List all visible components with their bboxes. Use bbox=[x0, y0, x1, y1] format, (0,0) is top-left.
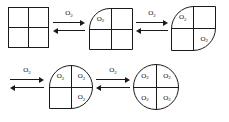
equilibrium-arrows-step-2: O2 bbox=[136, 10, 168, 34]
subunit-label-bottom-left bbox=[9, 28, 29, 48]
subunit-label-top-left bbox=[9, 8, 29, 28]
equilibrium-arrows-step-4: O2 bbox=[96, 67, 130, 91]
subunit-label-top-left: O2 bbox=[134, 65, 156, 87]
hemoglobin-state-2-two-oxygen: O2 O2 bbox=[171, 6, 216, 51]
subunit-label-bottom-right: O2 bbox=[194, 29, 216, 51]
arrow-label-oxygen: O2 bbox=[23, 67, 31, 74]
forward-arrow-icon bbox=[53, 19, 85, 26]
forward-arrow-icon bbox=[96, 76, 130, 83]
hemoglobin-oxygen-binding-diagram: O2 O2 O2 O2 O2 O2 bbox=[0, 0, 229, 122]
subunit-label-bottom-right: O2 bbox=[71, 87, 92, 108]
subunit-label-top-left: O2 bbox=[50, 66, 71, 87]
subunit-label-top-right bbox=[29, 8, 49, 28]
reverse-arrow-icon bbox=[53, 27, 85, 34]
arrow-label-oxygen: O2 bbox=[148, 10, 156, 17]
subunit-label-top-right: O2 bbox=[71, 66, 92, 87]
subunit-label-top-left: O2 bbox=[172, 7, 194, 29]
subunit-label-bottom-left bbox=[172, 29, 194, 51]
subunit-label-top-left: O2 bbox=[90, 9, 111, 29]
subunit-label-bottom-right: O2 bbox=[156, 87, 178, 109]
subunit-label-top-right bbox=[111, 9, 132, 29]
subunit-label-bottom-left bbox=[50, 87, 71, 108]
reverse-arrow-icon bbox=[10, 84, 44, 91]
forward-arrow-icon bbox=[136, 19, 168, 26]
subunit-label-bottom-right bbox=[29, 28, 49, 48]
subunit-label-top-right bbox=[194, 7, 216, 29]
hemoglobin-state-1-one-oxygen: O2 bbox=[89, 8, 133, 50]
arrow-label-oxygen: O2 bbox=[109, 67, 117, 74]
forward-arrow-icon bbox=[10, 76, 44, 83]
hemoglobin-state-3-three-oxygen: O2 O2 O2 bbox=[49, 65, 93, 109]
subunit-label-bottom-right bbox=[111, 29, 132, 49]
reverse-arrow-icon bbox=[96, 84, 130, 91]
equilibrium-arrows-step-3: O2 bbox=[10, 67, 44, 91]
subunit-label-bottom-left: O2 bbox=[134, 87, 156, 109]
equilibrium-arrows-step-1: O2 bbox=[53, 10, 85, 34]
subunit-label-bottom-left bbox=[90, 29, 111, 49]
hemoglobin-state-4-oxy: O2 O2 O2 O2 bbox=[133, 64, 179, 110]
hemoglobin-state-0-deoxy bbox=[8, 7, 49, 48]
subunit-label-top-right: O2 bbox=[156, 65, 178, 87]
reverse-arrow-icon bbox=[136, 27, 168, 34]
arrow-label-oxygen: O2 bbox=[65, 10, 73, 17]
